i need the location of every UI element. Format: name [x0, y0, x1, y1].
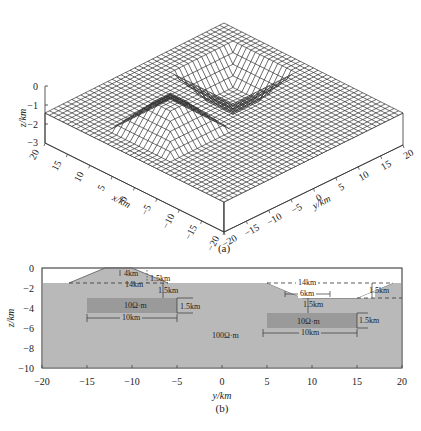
x-tick: 5 — [265, 376, 270, 387]
y-tick: −6 — [23, 323, 34, 334]
y-tick: −10 — [18, 363, 34, 374]
y-tick: −5 — [289, 201, 304, 216]
annotation: 14km — [298, 278, 317, 287]
y-tick: −15 — [242, 221, 261, 238]
annotation: 1.5km — [150, 274, 171, 283]
z-tick: −3 — [27, 137, 38, 148]
annotation: 10km — [301, 328, 320, 337]
x-tick: 20 — [397, 376, 407, 387]
annotation-background: 100Ω·m — [212, 331, 240, 340]
z-axis: 0 −1 −2 −3 z/km — [17, 81, 48, 148]
annotation: 1.5km — [158, 286, 179, 295]
y-axis-label: y/km — [310, 193, 333, 212]
y-tick: 0 — [29, 263, 34, 274]
annotation: 1.5km — [359, 316, 380, 325]
x-tick: −20 — [34, 376, 50, 387]
y-tick: 10 — [356, 168, 370, 183]
annotation: 1.5km — [180, 302, 201, 311]
x-tick: 20 — [27, 147, 41, 161]
b-y-axis-label: z/km — [5, 309, 16, 328]
annotation: 10km — [122, 313, 141, 322]
panel-a-3d-surface: 0 −1 −2 −3 z/km 20151050−5−10−15−20 x/km… — [17, 23, 415, 255]
y-tick: −10 — [264, 211, 283, 228]
x-tick: 15 — [352, 376, 362, 387]
y-tick: 5 — [336, 181, 346, 193]
x-tick: 10 — [71, 170, 85, 184]
annotation: 6km — [300, 289, 315, 298]
annotation: 10Ω·m — [297, 317, 321, 326]
panel-b-caption: (b) — [216, 402, 229, 415]
y-tick: −2 — [23, 283, 34, 294]
b-x-axis-label: y/km — [212, 390, 232, 401]
z-tick: 0 — [33, 81, 38, 92]
annotation: 1.5km — [303, 300, 324, 309]
x-tick: −15 — [79, 376, 95, 387]
x-tick: −5 — [172, 376, 183, 387]
x-tick: −10 — [160, 212, 177, 231]
annotation: 4km — [124, 269, 139, 278]
x-tick: 5 — [95, 183, 107, 193]
annotation: 10Ω·m — [124, 301, 148, 310]
y-tick: −8 — [23, 343, 34, 354]
y-tick: −4 — [23, 303, 34, 314]
x-tick: 10 — [307, 376, 317, 387]
figure: 0 −1 −2 −3 z/km 20151050−5−10−15−20 x/km… — [0, 0, 421, 431]
x-tick: −15 — [182, 223, 199, 242]
z-axis-label: z/km — [17, 109, 28, 128]
x-tick: −10 — [124, 376, 140, 387]
z-tick: −1 — [27, 100, 38, 111]
x-tick: 0 — [220, 376, 225, 387]
annotation: 14km — [125, 280, 144, 289]
surface-mesh — [45, 23, 403, 202]
x-axis-label: x/km — [110, 191, 133, 210]
x-tick: 15 — [49, 158, 63, 172]
y-tick: 15 — [379, 158, 393, 173]
annotation: 1.5km — [369, 286, 390, 295]
y-axis-ticks: 0 −2 −4 −6 −8 −10 — [18, 263, 34, 374]
panel-a-caption: (a) — [218, 242, 231, 255]
x-tick: −5 — [138, 203, 153, 218]
panel-b-cross-section: 4km 1.5km 14km 1.5km 10Ω·m 1.5km 10km 10… — [5, 263, 407, 415]
z-tick: −2 — [27, 119, 38, 130]
y-tick: 20 — [401, 147, 415, 162]
